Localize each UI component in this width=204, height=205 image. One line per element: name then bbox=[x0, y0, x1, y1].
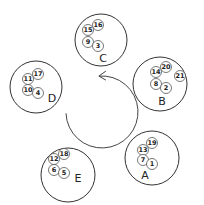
group-e: 181265E bbox=[41, 148, 95, 202]
item-number: 4 bbox=[36, 89, 41, 97]
item-number: 6 bbox=[52, 166, 57, 174]
item-number: 12 bbox=[49, 155, 58, 163]
counterclockwise-arrow-arc bbox=[66, 76, 138, 148]
group-label: E bbox=[75, 172, 82, 185]
item-number: 18 bbox=[59, 150, 69, 158]
item-number: 1 bbox=[150, 160, 155, 168]
item-number: 3 bbox=[96, 42, 101, 50]
item-number: 16 bbox=[93, 21, 103, 29]
item-number: 17 bbox=[33, 70, 42, 78]
item-number: 15 bbox=[83, 26, 93, 34]
item-number: 19 bbox=[147, 139, 157, 147]
group-c: 161593C bbox=[75, 14, 127, 66]
group-b: 20142182B bbox=[133, 57, 187, 111]
group-d: 1711104D bbox=[10, 61, 62, 113]
item-number: 13 bbox=[138, 146, 147, 154]
item-number: 21 bbox=[175, 72, 185, 80]
item-number: 9 bbox=[86, 38, 91, 46]
item-number: 5 bbox=[62, 169, 67, 177]
cycle-arrow bbox=[66, 71, 138, 148]
item-number: 20 bbox=[161, 63, 171, 71]
group-label: C bbox=[99, 52, 107, 65]
groups: 161593C20142182B1711104D181265E191371A bbox=[10, 14, 187, 202]
cycle-diagram: 161593C20142182B1711104D181265E191371A bbox=[0, 0, 204, 205]
item-number: 14 bbox=[151, 68, 161, 76]
item-number: 8 bbox=[154, 80, 159, 88]
group-label: D bbox=[48, 92, 56, 105]
item-number: 10 bbox=[23, 86, 33, 94]
group-label: A bbox=[141, 169, 149, 182]
group-label: B bbox=[158, 95, 166, 108]
group-a: 191371A bbox=[125, 131, 179, 185]
item-number: 2 bbox=[164, 84, 169, 92]
item-number: 7 bbox=[141, 156, 146, 164]
item-number: 11 bbox=[23, 75, 33, 83]
